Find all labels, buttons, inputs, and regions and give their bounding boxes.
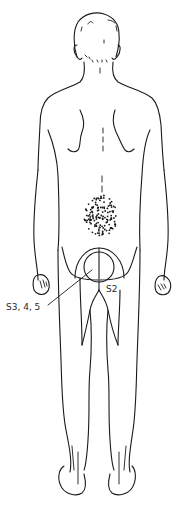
s345-pointer-line bbox=[48, 270, 92, 305]
right-hip bbox=[100, 247, 137, 280]
right-hand bbox=[155, 276, 171, 295]
left-scapula bbox=[68, 110, 84, 152]
right-foot bbox=[109, 466, 136, 495]
torso-left-outline bbox=[38, 62, 84, 170]
s345-label: S3, 4, 5 bbox=[6, 303, 40, 312]
right-leg-outer bbox=[129, 250, 140, 472]
left-leg-outer bbox=[58, 250, 71, 472]
left-hip bbox=[62, 247, 98, 280]
spine-dashes bbox=[102, 128, 103, 192]
dermatome-dotted-region bbox=[84, 195, 117, 237]
right-scapula bbox=[113, 110, 134, 152]
torso-right-outline bbox=[113, 62, 164, 170]
left-foot bbox=[59, 466, 86, 495]
s2-label: S2 bbox=[106, 285, 117, 294]
head-outline bbox=[74, 13, 119, 57]
body-outline-figure bbox=[0, 0, 185, 510]
